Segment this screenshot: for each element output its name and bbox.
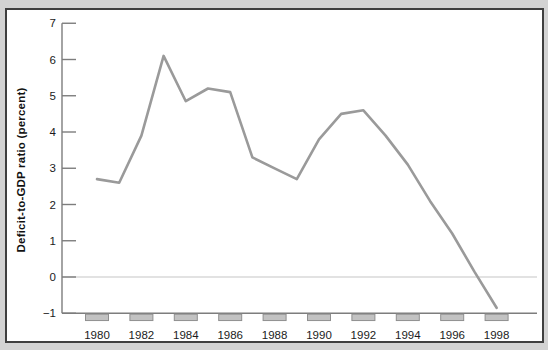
y-tick-label: 4 — [50, 126, 57, 138]
data-line — [97, 56, 497, 308]
line-chart-canvas: 76543210−1198019821984198619881990199219… — [0, 0, 548, 350]
x-tick-label: 1984 — [173, 329, 199, 341]
x-tick-label: 1994 — [395, 329, 421, 341]
x-tick-box — [308, 314, 331, 320]
x-tick-label: 1988 — [262, 329, 288, 341]
x-tick-label: 1982 — [129, 329, 155, 341]
x-tick-box — [219, 314, 242, 320]
x-tick-label: 1996 — [439, 329, 465, 341]
x-tick-label: 1980 — [84, 329, 110, 341]
x-tick-box — [130, 314, 153, 320]
y-tick-label: 2 — [50, 199, 56, 211]
y-tick-label: 6 — [50, 54, 56, 66]
x-tick-box — [174, 314, 197, 320]
x-tick-label: 1986 — [217, 329, 243, 341]
y-tick-label: −1 — [43, 307, 56, 319]
x-tick-box — [396, 314, 419, 320]
x-tick-label: 1990 — [306, 329, 332, 341]
x-tick-box — [485, 314, 508, 320]
y-tick-label: 1 — [50, 235, 56, 247]
x-tick-box — [86, 314, 109, 320]
x-tick-box — [352, 314, 375, 320]
y-tick-label: 0 — [50, 271, 56, 283]
x-tick-label: 1992 — [351, 329, 377, 341]
chart-root: { "figure": { "outer_background": "#d3d3… — [0, 0, 548, 350]
y-tick-label: 7 — [50, 17, 56, 29]
x-tick-box — [441, 314, 464, 320]
y-tick-label: 5 — [50, 90, 56, 102]
y-tick-label: 3 — [50, 162, 56, 174]
x-tick-label: 1998 — [484, 329, 510, 341]
x-tick-box — [263, 314, 286, 320]
